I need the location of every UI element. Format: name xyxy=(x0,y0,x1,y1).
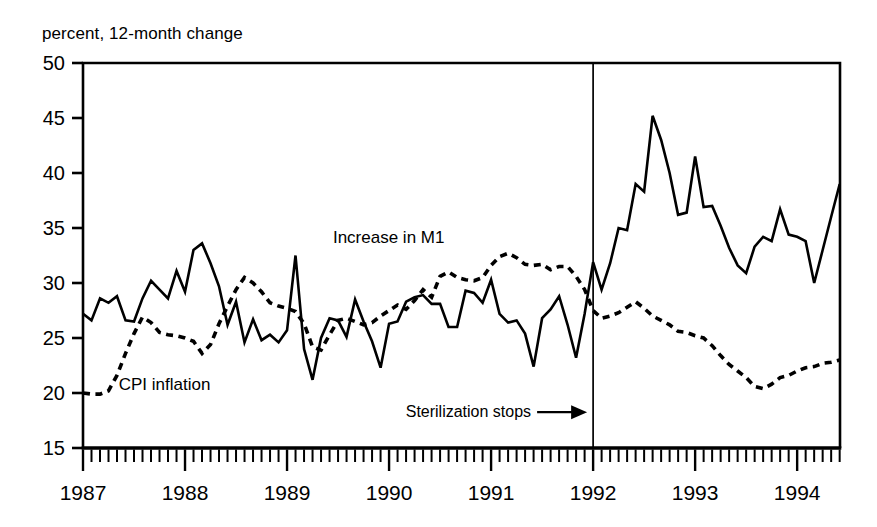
x-axis-tick-labels: 19871988198919901991199219931994 xyxy=(60,481,821,504)
chart-root: percent, 12-month change 152025303540455… xyxy=(0,0,877,527)
y-tick-label: 40 xyxy=(43,162,65,184)
x-tick-label: 1992 xyxy=(570,481,617,504)
x-tick-label: 1989 xyxy=(264,481,311,504)
series-label-increase-in-m1: Increase in M1 xyxy=(333,228,445,247)
y-tick-label: 35 xyxy=(43,217,65,239)
x-tick-label: 1991 xyxy=(468,481,515,504)
annotation-label-sterilization-stops: Sterilization stops xyxy=(406,403,531,420)
x-tick-label: 1993 xyxy=(672,481,719,504)
series-label-cpi-inflation: CPI inflation xyxy=(119,375,211,394)
y-tick-label: 25 xyxy=(43,327,65,349)
series-line-cpi-inflation xyxy=(83,253,840,394)
x-tick-label: 1988 xyxy=(162,481,209,504)
series-labels: Increase in M1CPI inflation xyxy=(119,228,445,393)
y-tick-label: 45 xyxy=(43,107,65,129)
annotation-arrow-head xyxy=(571,405,587,419)
x-tick-label: 1987 xyxy=(60,481,107,504)
x-tick-label: 1994 xyxy=(774,481,821,504)
x-tick-label: 1990 xyxy=(366,481,413,504)
chart-canvas: 1520253035404550 19871988198919901991199… xyxy=(0,0,877,527)
data-series-group xyxy=(83,116,840,394)
y-tick-label: 15 xyxy=(43,437,65,459)
y-axis-tick-labels: 1520253035404550 xyxy=(43,52,65,459)
series-line-increase-in-m1 xyxy=(83,116,840,380)
chart-annotations: Sterilization stops xyxy=(406,403,587,420)
x-axis-ticks xyxy=(83,450,840,472)
y-tick-label: 50 xyxy=(43,52,65,74)
y-axis-ticks xyxy=(72,63,83,448)
y-tick-label: 30 xyxy=(43,272,65,294)
y-tick-label: 20 xyxy=(43,382,65,404)
